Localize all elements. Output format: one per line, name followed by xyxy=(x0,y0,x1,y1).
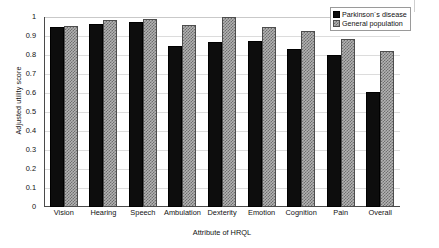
bar-groups xyxy=(44,17,400,207)
frame-rule xyxy=(414,0,415,12)
bar xyxy=(380,51,394,207)
x-axis-tick-label: Cognition xyxy=(281,209,321,217)
x-axis-tick-label: Pain xyxy=(321,209,361,217)
legend-swatch-general-population xyxy=(333,20,340,27)
bar xyxy=(168,46,182,208)
y-axis-tick-label: 0.6 xyxy=(10,89,36,96)
bar xyxy=(222,17,236,207)
bar xyxy=(89,24,103,207)
bar-group xyxy=(202,17,242,207)
y-axis-tick-label: 0.7 xyxy=(10,70,36,77)
y-axis-tick-label: 0.2 xyxy=(10,165,36,172)
bar xyxy=(287,49,301,207)
x-axis-tick-label: Ambulation xyxy=(163,209,203,217)
bar xyxy=(182,25,196,207)
bar-group xyxy=(163,17,203,207)
legend-item-parkinsons: Parkinson´s disease xyxy=(333,10,407,19)
y-axis-tick-label: 0.3 xyxy=(10,146,36,153)
x-axis-tick-label: Vision xyxy=(44,209,84,217)
bar xyxy=(64,26,78,207)
x-axis-tick-label: Emotion xyxy=(242,209,282,217)
y-axis-tick-label: 1 xyxy=(10,13,36,20)
legend-swatch-parkinsons xyxy=(333,11,340,18)
bar xyxy=(327,55,341,207)
bar-group xyxy=(361,17,401,207)
legend-label-parkinsons: Parkinson´s disease xyxy=(342,11,407,18)
bar-group xyxy=(123,17,163,207)
bar-group xyxy=(321,17,361,207)
x-axis-tick-label: Speech xyxy=(123,209,163,217)
chart-figure: Adjusted utility score VisionHearingSpee… xyxy=(0,0,439,248)
bar-group xyxy=(84,17,124,207)
bar-group xyxy=(242,17,282,207)
legend-item-general-population: General population xyxy=(333,19,407,28)
bar xyxy=(50,27,64,207)
y-axis-tick-label: 0 xyxy=(10,203,36,210)
legend-label-general-population: General population xyxy=(342,20,403,27)
y-axis-tick-label: 0.9 xyxy=(10,32,36,39)
y-axis-tick-label: 0.4 xyxy=(10,127,36,134)
x-axis-tick-label: Overall xyxy=(361,209,401,217)
y-axis-tick-label: 0.5 xyxy=(10,108,36,115)
bar xyxy=(366,92,380,207)
y-axis-tick-label: 0.8 xyxy=(10,51,36,58)
x-axis-tick-label: Dexterity xyxy=(202,209,242,217)
x-axis-tick-labels: VisionHearingSpeechAmbulationDexterityEm… xyxy=(44,209,400,217)
bar-group xyxy=(281,17,321,207)
bar xyxy=(341,39,355,207)
x-axis-tick-label: Hearing xyxy=(84,209,124,217)
bar xyxy=(129,22,143,207)
bar xyxy=(143,19,157,207)
x-axis-title: Attribute of HRQL xyxy=(44,228,400,237)
bar xyxy=(248,41,262,207)
bar xyxy=(262,27,276,207)
legend: Parkinson´s disease General population xyxy=(330,7,411,31)
bar xyxy=(103,20,117,207)
bar-group xyxy=(44,17,84,207)
bar xyxy=(208,42,222,207)
y-axis-tick-label: 0.1 xyxy=(10,184,36,191)
bar xyxy=(301,31,315,207)
